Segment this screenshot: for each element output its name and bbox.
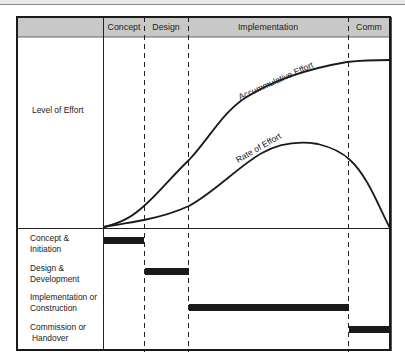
accummulative-effort-label: Accummulative Effort	[237, 59, 316, 101]
gantt-bar-design	[145, 268, 189, 275]
gantt-bar-implementation	[189, 304, 349, 311]
phase-header-implementation: Implementation	[238, 22, 298, 32]
accummulative-effort-curve	[104, 60, 390, 227]
row-label-concept: Concept & Initiation	[30, 233, 69, 255]
row-label-commission: Commission or Handover	[30, 322, 86, 344]
row-label-implementation: Implementation or Construction	[30, 292, 97, 314]
row-label-line: Handover	[30, 333, 86, 344]
row-label-line: Initiation	[30, 244, 69, 255]
phase-header-comm: Comm	[356, 22, 382, 32]
level-of-effort-label: Level of Effort	[32, 105, 84, 116]
row-label-design: Design & Development	[30, 263, 79, 285]
row-label-line: Design &	[30, 263, 79, 274]
phase-header-concept: Concept	[108, 22, 141, 32]
row-label-line: Development	[30, 274, 79, 285]
row-label-line: Implementation or	[30, 292, 97, 303]
row-label-line: Concept &	[30, 233, 69, 244]
phase-header-design: Design	[152, 22, 179, 32]
gantt-bar-concept	[104, 237, 144, 244]
row-label-line: Construction	[30, 303, 97, 314]
gantt-bar-comm	[349, 326, 391, 333]
header-band	[17, 17, 390, 37]
row-label-line: Commission or	[30, 322, 86, 333]
